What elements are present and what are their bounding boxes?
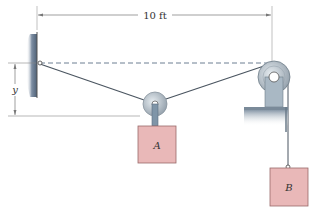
- dimension-10ft: 10 ft: [37, 6, 272, 62]
- pulley-system-diagram: 10 ft y A: [0, 0, 314, 212]
- block-a-label: A: [152, 140, 160, 151]
- left-wall: [26, 32, 37, 98]
- right-support: [244, 107, 288, 132]
- pulley-a: [143, 92, 167, 126]
- wall-anchor-pin: [38, 61, 42, 65]
- dimension-10ft-label: 10 ft: [143, 10, 167, 21]
- dimension-y-label: y: [11, 84, 18, 95]
- block-b-label: B: [284, 182, 292, 193]
- block-a: A: [138, 126, 176, 163]
- fixed-pulley: [258, 61, 290, 107]
- block-b: B: [270, 168, 308, 206]
